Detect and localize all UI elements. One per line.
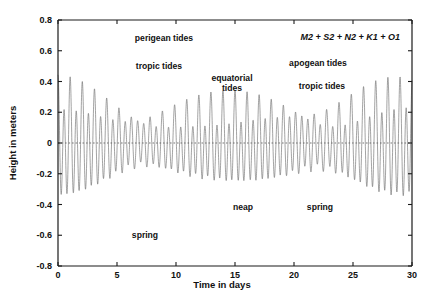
annotation-equatorial-tides-line1: equatorial — [211, 73, 252, 83]
y-tick-label: -0.4 — [36, 200, 52, 210]
y-tick-label: 0 — [47, 138, 52, 148]
annotation-apogean-tides: apogean tides — [289, 58, 347, 68]
tide-chart-figure: 0.80.60.40.20-0.2-0.4-0.6-0.8 0510152025… — [0, 0, 442, 302]
y-tick-label: -0.2 — [36, 169, 52, 179]
y-tick-label: 0.6 — [39, 46, 52, 56]
annotation-perigean-tides: perigean tides — [135, 33, 193, 43]
annotation-spring-right: spring — [307, 202, 333, 212]
constituent-formula: M2 + S2 + N2 + K1 + O1 — [300, 32, 400, 42]
annotation-spring-left: spring — [132, 230, 158, 240]
tide-plot-svg: 0.80.60.40.20-0.2-0.4-0.6-0.8 0510152025… — [0, 0, 442, 302]
y-tick-label: -0.8 — [36, 261, 52, 271]
annotation-equatorial-tides-line2: tides — [222, 83, 242, 93]
x-tick-label: 5 — [114, 270, 119, 280]
x-axis-title: Time in days — [193, 279, 250, 290]
y-tick-label: -0.6 — [36, 230, 52, 240]
x-tick-label: 30 — [407, 270, 417, 280]
y-tick-label: 0.4 — [39, 77, 52, 87]
y-axis-title: Height in meters — [7, 106, 18, 180]
x-tick-label: 25 — [348, 270, 358, 280]
x-tick-label: 0 — [55, 270, 60, 280]
y-tick-label: 0.2 — [39, 107, 52, 117]
annotation-tropic-tides-left: tropic tides — [136, 61, 183, 71]
annotation-tropic-tides-right: tropic tides — [299, 81, 346, 91]
annotation-neap: neap — [233, 202, 253, 212]
x-tick-label: 20 — [289, 270, 299, 280]
x-tick-label: 10 — [171, 270, 181, 280]
y-tick-label: 0.8 — [39, 15, 52, 25]
